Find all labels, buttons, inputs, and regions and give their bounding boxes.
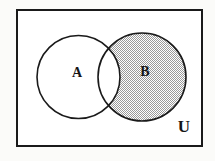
set-a-label: A bbox=[72, 65, 83, 80]
set-b-label: B bbox=[140, 64, 149, 79]
venn-diagram-figure: A B U bbox=[0, 0, 215, 161]
universal-set-label: U bbox=[178, 117, 190, 136]
shaded-region-b-only bbox=[0, 0, 215, 161]
venn-diagram-canvas: A B U bbox=[0, 0, 215, 161]
